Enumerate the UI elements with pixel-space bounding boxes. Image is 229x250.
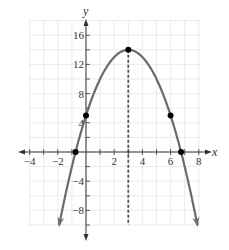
x-tick-label: 4 bbox=[140, 155, 146, 167]
y-tick-label: 12 bbox=[73, 58, 84, 70]
x-axis-left-arrow-icon bbox=[18, 150, 25, 155]
point-y-intercept bbox=[83, 113, 89, 119]
y-tick-label: 8 bbox=[79, 88, 85, 100]
x-axis-label: x bbox=[211, 145, 218, 159]
y-tick-label: −8 bbox=[72, 204, 84, 216]
parabola-chart: −4−22468−8−4481216 x y bbox=[0, 0, 229, 250]
x-tick-label: −2 bbox=[52, 155, 64, 167]
x-axis-right-arrow-icon bbox=[205, 150, 212, 155]
x-tick-label: 6 bbox=[168, 155, 174, 167]
point-x-intercept-left bbox=[73, 149, 79, 155]
y-axis-up-arrow-icon bbox=[84, 19, 89, 26]
x-tick-label: 8 bbox=[196, 155, 202, 167]
point-symmetric-point bbox=[168, 113, 174, 119]
x-tick-label: 2 bbox=[111, 155, 117, 167]
y-axis-down-arrow-icon bbox=[84, 234, 89, 241]
y-tick-label: −4 bbox=[72, 175, 84, 187]
y-axis-label: y bbox=[82, 4, 89, 18]
point-x-intercept-right bbox=[178, 149, 184, 155]
point-vertex bbox=[125, 47, 131, 53]
axes bbox=[18, 19, 212, 241]
grid bbox=[29, 21, 201, 225]
x-tick-label: −4 bbox=[24, 155, 36, 167]
y-tick-label: 16 bbox=[73, 29, 85, 41]
